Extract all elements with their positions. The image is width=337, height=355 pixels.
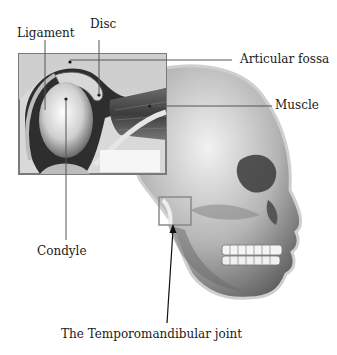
teeth — [222, 245, 282, 265]
tmj-title-label: The Temporomandibular joint — [61, 327, 242, 341]
condyle-label: Condyle — [37, 244, 87, 258]
articular-fossa-label: Articular fossa — [240, 52, 329, 66]
tmj-diagram: Ligament Disc Articular fossa Muscle Con… — [0, 0, 337, 355]
fossa-marker — [68, 60, 71, 63]
ligament-label: Ligament — [17, 26, 75, 40]
joint-inset — [19, 54, 166, 174]
muscle-label: Muscle — [275, 98, 319, 112]
disc-label: Disc — [90, 17, 116, 31]
